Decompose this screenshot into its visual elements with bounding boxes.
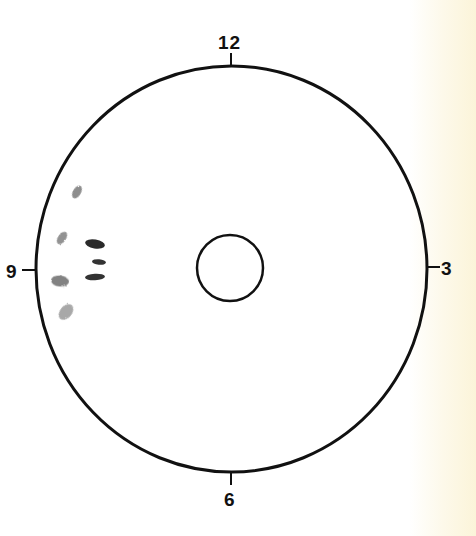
- target-diagram: 12 3 6 9: [0, 0, 476, 536]
- shot-mark: [55, 230, 70, 246]
- shot-mark: [84, 238, 105, 250]
- clock-label-9: 9: [6, 262, 17, 281]
- outer-ring: [36, 66, 427, 472]
- clock-label-12: 12: [218, 33, 241, 52]
- clock-label-3: 3: [441, 259, 452, 278]
- shot-marks-group: [51, 184, 107, 323]
- target-drawing: [0, 0, 476, 536]
- shot-mark: [56, 301, 77, 323]
- center-ring: [197, 235, 263, 301]
- shot-mark: [70, 184, 84, 200]
- shot-mark: [85, 273, 105, 280]
- shot-mark: [51, 275, 70, 288]
- shot-mark: [92, 259, 106, 266]
- clock-label-6: 6: [224, 490, 235, 509]
